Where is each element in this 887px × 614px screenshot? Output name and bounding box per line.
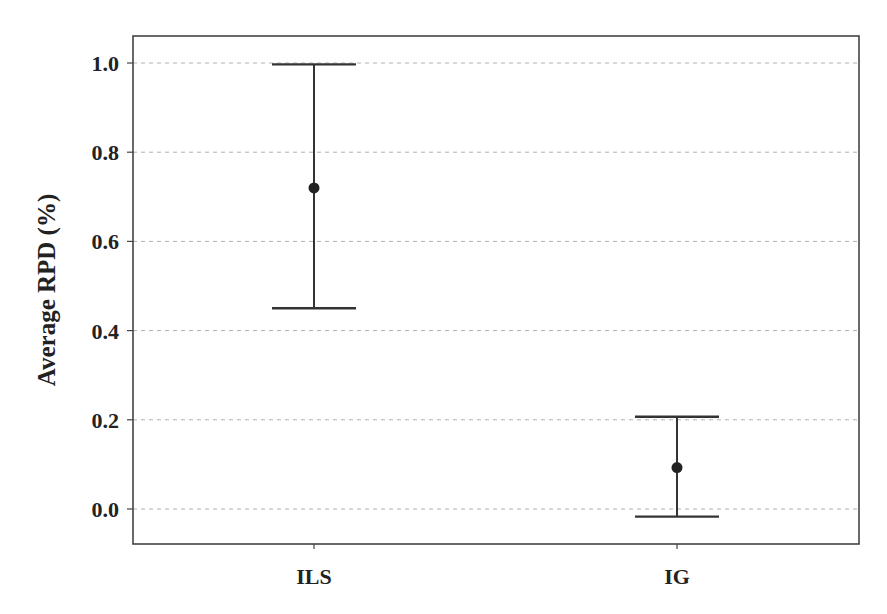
x-tick-label-ils: ILS xyxy=(296,564,331,589)
y-tick-label: 0.2 xyxy=(92,408,120,433)
y-tick-label: 1.0 xyxy=(92,51,120,76)
y-axis-title: Average RPD (%) xyxy=(33,194,61,387)
y-gridlines xyxy=(133,63,859,509)
errorbar-ig xyxy=(635,417,719,517)
errorbar-ils xyxy=(272,64,356,308)
y-axis-ticks: 0.00.20.40.60.81.0 xyxy=(92,51,134,522)
x-axis-ticks: ILSIG xyxy=(296,544,690,589)
error-bars xyxy=(272,64,719,516)
plot-frame xyxy=(133,36,859,544)
y-tick-label: 0.0 xyxy=(92,497,120,522)
mean-marker xyxy=(672,462,683,473)
mean-marker xyxy=(309,182,320,193)
y-tick-label: 0.8 xyxy=(92,140,120,165)
errorbar-chart: 0.00.20.40.60.81.0 ILSIG Average RPD (%) xyxy=(0,0,887,614)
y-tick-label: 0.4 xyxy=(92,319,120,344)
x-tick-label-ig: IG xyxy=(664,564,690,589)
y-tick-label: 0.6 xyxy=(92,229,120,254)
